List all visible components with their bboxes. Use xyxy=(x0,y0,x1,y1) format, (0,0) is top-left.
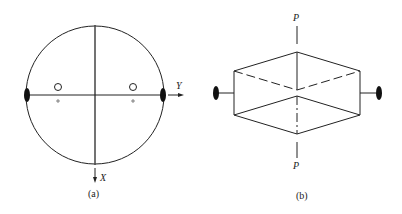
two-fold-lens-icon xyxy=(24,88,30,102)
y-axis-label: Y xyxy=(176,80,183,91)
figure-a: Y X (a) xyxy=(24,25,184,200)
p-label-bottom: P xyxy=(292,160,299,171)
plus-pole-icon xyxy=(56,99,60,103)
x-axis-arrow-icon xyxy=(93,168,97,183)
caption-a: (a) xyxy=(88,188,99,200)
p-label-top: P xyxy=(292,12,299,23)
two-fold-lens-icon xyxy=(213,86,219,100)
plus-pole-icon xyxy=(131,99,135,103)
open-circle-pole-icon xyxy=(130,84,137,91)
figure-b xyxy=(218,26,376,158)
y-axis-arrow-icon xyxy=(168,93,184,97)
x-axis-label: X xyxy=(99,172,107,183)
diagram-canvas: Y X (a) P P (b) xyxy=(0,0,402,214)
caption-b: (b) xyxy=(296,190,308,202)
open-circle-pole-icon xyxy=(55,84,62,91)
two-fold-lens-icon xyxy=(376,86,382,100)
two-fold-lens-icon xyxy=(160,88,166,102)
